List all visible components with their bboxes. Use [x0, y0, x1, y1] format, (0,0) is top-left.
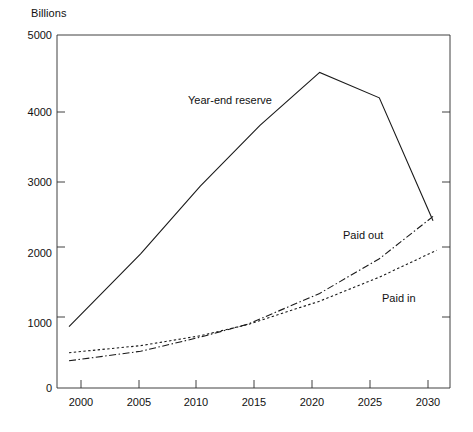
y-axis-ticks-right	[442, 112, 450, 317]
series-line-year-end-reserve	[69, 72, 433, 326]
series-line-paid-out	[69, 216, 433, 360]
plot-frame-box	[57, 35, 450, 388]
plot-area	[0, 0, 473, 432]
x-axis-ticks	[81, 380, 428, 388]
chart-container: Billions 5000 4000 3000 2000 1000 0 2000…	[0, 0, 473, 432]
series-line-paid-in	[69, 250, 437, 352]
y-axis-ticks	[57, 112, 65, 317]
